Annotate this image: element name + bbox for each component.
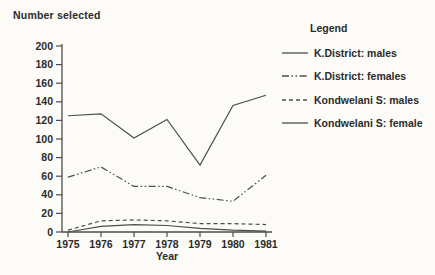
legend-item-kondwelani-s-female: Kondwelani S: female [282, 112, 432, 136]
x-tick-label: 1977 [122, 238, 146, 250]
legend-item-kondwelani-s-males: Kondwelani S: males [282, 88, 432, 112]
y-tick-label: 160 [35, 77, 53, 89]
y-tick-label: 80 [41, 151, 53, 163]
solid-line-sample-icon [282, 49, 308, 57]
legend-label-k-district-females: K.District: females [314, 70, 406, 82]
legend-title: Legend [310, 22, 432, 37]
x-tick-label: 1980 [221, 238, 245, 250]
y-tick-label: 100 [35, 133, 53, 145]
legend: Legend K.District: malesK.District: fema… [282, 22, 432, 135]
y-tick-label: 140 [35, 95, 53, 107]
legend-label-kondwelani-s-female: Kondwelani S: female [314, 117, 423, 129]
x-tick-label: 1978 [155, 238, 179, 250]
y-tick-label: 200 [35, 40, 53, 52]
y-tick-label: 0 [47, 226, 53, 238]
y-tick-label: 120 [35, 114, 53, 126]
dashed-line-sample-icon [282, 96, 308, 104]
x-tick-label: 1979 [188, 238, 212, 250]
x-tick-label: 1976 [89, 238, 113, 250]
y-tick-label: 60 [41, 170, 53, 182]
y-tick-label: 20 [41, 207, 53, 219]
y-tick-label: 180 [35, 58, 53, 70]
solid-line-sample-icon [282, 119, 308, 127]
x-tick-label: 1981 [254, 238, 278, 250]
legend-items: K.District: malesK.District: femalesKond… [282, 41, 432, 135]
legend-item-k-district-males: K.District: males [282, 41, 432, 65]
x-tick-label: 1975 [56, 238, 80, 250]
dashdot-line-sample-icon [282, 72, 308, 80]
legend-label-k-district-males: K.District: males [314, 47, 397, 59]
legend-label-kondwelani-s-males: Kondwelani S: males [314, 94, 419, 106]
series-line-k-district-males [68, 95, 266, 165]
legend-item-k-district-females: K.District: females [282, 65, 432, 89]
y-tick-label: 40 [41, 188, 53, 200]
x-axis-label: Year [156, 250, 178, 262]
series-line-k-district-females [68, 167, 266, 201]
series-line-kondwelani-s-female [68, 225, 266, 232]
figure-line-chart: Number selected 020406080100120140160180… [0, 0, 435, 275]
